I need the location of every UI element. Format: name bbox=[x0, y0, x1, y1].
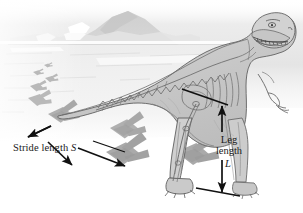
leg-length-symbol: L bbox=[214, 158, 242, 169]
near-foot bbox=[166, 178, 193, 194]
eye-pupil bbox=[271, 24, 273, 26]
leg-length-label: Leg length bbox=[208, 134, 250, 156]
figure-canvas bbox=[0, 0, 303, 213]
leg-length-line2: length bbox=[208, 145, 250, 156]
stride-length-text: Stride length bbox=[13, 142, 68, 153]
stride-length-symbol: S bbox=[71, 142, 76, 153]
leg-length-line1: Leg bbox=[208, 134, 250, 145]
dinosaur-stride-figure: Stride length S Leg length L bbox=[0, 0, 303, 213]
stride-length-label: Stride length S bbox=[13, 142, 76, 153]
